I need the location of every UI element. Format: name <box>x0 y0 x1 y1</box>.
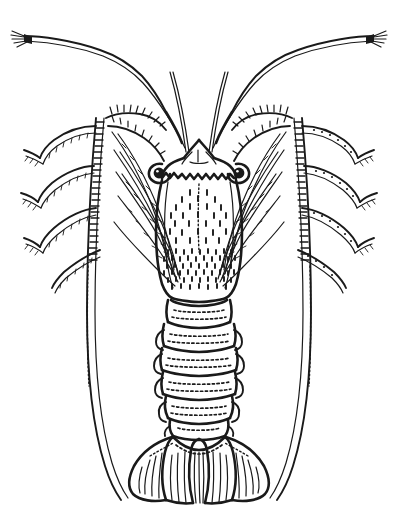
spiny-lobster-illustration <box>0 0 398 530</box>
figure-root <box>0 0 398 530</box>
